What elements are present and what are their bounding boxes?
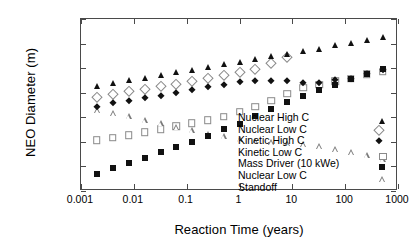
x-axis-tick <box>81 19 82 24</box>
x-axis-tick <box>398 184 399 189</box>
legend-item: Nuclear Low CStandoff <box>238 170 390 191</box>
data-point <box>173 124 179 130</box>
y-axis-tick <box>81 142 86 143</box>
x-axis-tick <box>345 19 346 24</box>
x-axis-tick <box>240 19 241 24</box>
legend-item-label: Nuclear Low CStandoff <box>238 170 307 193</box>
data-point <box>158 120 164 126</box>
y-axis-tick <box>391 44 396 45</box>
legend-marker-open-diamond-icon <box>374 124 385 135</box>
x-axis-tick-label: 100 <box>335 193 353 205</box>
data-point <box>221 133 227 139</box>
data-point <box>252 103 260 111</box>
data-point <box>188 86 196 94</box>
data-point <box>204 117 212 125</box>
data-point <box>94 171 100 177</box>
data-point <box>250 63 261 74</box>
x-axis-tick-label: 0.1 <box>178 193 193 205</box>
y-axis-tick <box>391 166 396 167</box>
data-point <box>110 80 116 86</box>
data-point <box>284 51 290 57</box>
legend-item: Nuclear High C <box>238 112 390 124</box>
x-axis-tick <box>187 19 188 24</box>
data-point <box>173 69 179 75</box>
x-axis-tick-label: 1 <box>236 193 242 205</box>
data-point <box>204 84 212 92</box>
x-axis-tick-label: 1000 <box>385 193 408 205</box>
data-point <box>316 46 322 52</box>
data-point <box>220 113 228 121</box>
data-point <box>141 94 149 102</box>
legend: Nuclear High CNuclear Low CKinetic High … <box>238 112 390 191</box>
data-point <box>236 78 244 86</box>
data-point <box>348 76 354 82</box>
data-point <box>157 92 165 100</box>
data-point <box>237 59 243 65</box>
data-point <box>126 160 132 166</box>
legend-marker-open-triangle-icon <box>379 176 385 182</box>
x-axis-tick <box>134 19 135 24</box>
data-point <box>158 72 164 78</box>
data-point <box>300 93 306 99</box>
data-point <box>107 89 118 100</box>
data-point <box>171 79 182 90</box>
x-axis-tick <box>398 19 399 24</box>
data-point <box>221 126 227 132</box>
data-point <box>283 90 291 98</box>
data-point <box>300 48 306 54</box>
y-axis-tick <box>391 19 396 20</box>
data-point <box>218 70 229 81</box>
x-axis-tick <box>134 184 135 189</box>
x-axis-tick-label: 0.001 <box>67 193 93 205</box>
y-axis-tick <box>81 68 86 69</box>
data-point <box>252 56 258 62</box>
x-axis-title: Reaction Time (years) <box>80 222 398 237</box>
data-point <box>267 77 275 85</box>
data-point <box>220 81 228 89</box>
neo-deflection-chart: NEO Diameter (m) Reaction Time (years) N… <box>0 0 417 250</box>
y-axis-tick <box>81 191 86 192</box>
data-point <box>173 89 181 97</box>
legend-item-label-line2: Standoff <box>238 182 307 194</box>
y-axis-tick <box>81 93 86 94</box>
data-point <box>364 71 370 77</box>
data-point <box>155 81 166 92</box>
data-point <box>189 139 195 145</box>
y-axis-tick <box>391 142 396 143</box>
data-point <box>364 37 370 43</box>
data-point <box>142 117 148 123</box>
y-axis-tick <box>391 191 396 192</box>
y-axis-tick <box>391 117 396 118</box>
y-axis-tick <box>391 68 396 69</box>
data-point <box>126 113 132 119</box>
data-point <box>268 53 274 59</box>
data-point <box>93 136 101 144</box>
data-point <box>173 144 179 150</box>
data-point <box>202 73 213 84</box>
data-point <box>348 40 354 46</box>
data-point <box>158 149 164 155</box>
x-axis-tick <box>81 184 82 189</box>
data-point <box>380 66 386 72</box>
data-point <box>123 86 134 97</box>
y-axis-tick <box>391 93 396 94</box>
data-point <box>284 99 290 105</box>
data-point <box>125 131 133 139</box>
data-point <box>221 61 227 67</box>
data-point <box>189 67 195 73</box>
x-axis-tick-label: 10 <box>285 193 297 205</box>
data-point <box>234 67 245 78</box>
data-point <box>380 34 386 40</box>
y-axis-title: NEO Diameter (m) <box>23 13 38 193</box>
y-axis-tick <box>81 117 86 118</box>
data-point <box>110 110 116 116</box>
data-point <box>109 134 117 142</box>
data-point <box>268 97 276 105</box>
data-point <box>332 82 338 88</box>
legend-item-label: Nuclear High C <box>238 112 309 124</box>
data-point <box>142 75 148 81</box>
legend-marker-filled-diamond-icon <box>375 137 383 145</box>
data-point <box>205 64 211 70</box>
data-point <box>142 155 148 161</box>
data-point <box>316 87 322 93</box>
